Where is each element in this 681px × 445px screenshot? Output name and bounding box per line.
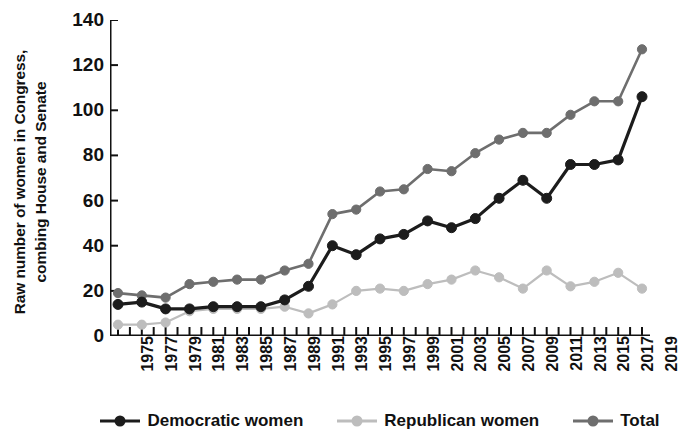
data-point bbox=[470, 214, 480, 224]
data-point bbox=[375, 284, 384, 293]
data-point bbox=[566, 282, 575, 291]
data-point bbox=[447, 223, 457, 233]
data-point bbox=[447, 275, 456, 284]
data-point bbox=[375, 187, 384, 196]
y-axis-tick-labels: 020406080100120140 bbox=[56, 20, 104, 336]
x-tick-label-1997: 1997 bbox=[401, 336, 419, 404]
data-point bbox=[613, 155, 623, 165]
data-point bbox=[352, 286, 361, 295]
x-tick-label-2013: 2013 bbox=[592, 336, 610, 404]
x-tick-label-1975: 1975 bbox=[139, 336, 157, 404]
data-point bbox=[280, 295, 290, 305]
y-tick-label-140: 140 bbox=[60, 9, 104, 31]
legend-label: Republican women bbox=[384, 411, 539, 431]
data-point bbox=[161, 318, 170, 327]
y-tick-label-100: 100 bbox=[60, 99, 104, 121]
data-point bbox=[518, 128, 527, 137]
data-point bbox=[637, 284, 646, 293]
y-tick-label-40: 40 bbox=[60, 235, 104, 257]
data-point bbox=[208, 302, 218, 312]
data-point bbox=[232, 302, 242, 312]
x-tick-label-2009: 2009 bbox=[544, 336, 562, 404]
plot-area bbox=[110, 20, 650, 336]
data-point bbox=[304, 281, 314, 291]
legend-dot bbox=[588, 416, 599, 427]
data-point bbox=[352, 205, 361, 214]
x-tick-label-1977: 1977 bbox=[163, 336, 181, 404]
legend-marker-icon bbox=[100, 414, 140, 428]
data-point bbox=[399, 286, 408, 295]
series-total bbox=[113, 45, 646, 303]
x-tick-label-2005: 2005 bbox=[496, 336, 514, 404]
data-point bbox=[161, 304, 171, 314]
data-point bbox=[614, 268, 623, 277]
data-point bbox=[304, 259, 313, 268]
x-tick-label-2007: 2007 bbox=[520, 336, 538, 404]
data-point bbox=[233, 275, 242, 284]
x-tick-label-1985: 1985 bbox=[258, 336, 276, 404]
chart-legend: Democratic womenRepublican womenTotal bbox=[110, 406, 650, 436]
legend-item-republican-women[interactable]: Republican women bbox=[337, 411, 539, 431]
legend-item-democratic-women[interactable]: Democratic women bbox=[100, 411, 303, 431]
data-point bbox=[471, 149, 480, 158]
data-point bbox=[494, 193, 504, 203]
y-tick-label-80: 80 bbox=[60, 144, 104, 166]
legend-marker-icon bbox=[337, 414, 377, 428]
y-tick-label-20: 20 bbox=[60, 280, 104, 302]
data-point bbox=[637, 45, 646, 54]
data-point bbox=[423, 280, 432, 289]
data-point bbox=[256, 302, 266, 312]
data-point bbox=[137, 297, 147, 307]
x-tick-label-2019: 2019 bbox=[663, 336, 681, 404]
x-tick-label-1981: 1981 bbox=[210, 336, 228, 404]
data-point bbox=[399, 229, 409, 239]
data-point bbox=[614, 97, 623, 106]
data-point bbox=[589, 160, 599, 170]
data-point bbox=[423, 164, 432, 173]
legend-item-total[interactable]: Total bbox=[573, 411, 659, 431]
data-point bbox=[590, 97, 599, 106]
data-point bbox=[590, 277, 599, 286]
x-tick-label-2001: 2001 bbox=[449, 336, 467, 404]
data-point bbox=[327, 241, 337, 251]
x-tick-label-2017: 2017 bbox=[639, 336, 657, 404]
x-tick-label-1995: 1995 bbox=[377, 336, 395, 404]
data-point bbox=[328, 300, 337, 309]
legend-dot bbox=[115, 416, 126, 427]
legend-label: Total bbox=[620, 411, 659, 431]
legend-marker-icon bbox=[573, 414, 613, 428]
data-point bbox=[423, 216, 433, 226]
legend-label: Democratic women bbox=[147, 411, 303, 431]
data-point bbox=[304, 309, 313, 318]
y-tick-label-0: 0 bbox=[60, 325, 104, 347]
y-tick-label-60: 60 bbox=[60, 190, 104, 212]
data-point bbox=[209, 277, 218, 286]
data-point bbox=[399, 185, 408, 194]
x-tick-label-1991: 1991 bbox=[330, 336, 348, 404]
data-point bbox=[256, 275, 265, 284]
x-tick-label-1987: 1987 bbox=[282, 336, 300, 404]
data-point bbox=[471, 266, 480, 275]
x-tick-label-2015: 2015 bbox=[615, 336, 633, 404]
x-tick-label-1983: 1983 bbox=[234, 336, 252, 404]
y-axis-title: Raw number of women in Congress, combing… bbox=[0, 32, 62, 332]
x-tick-label-1999: 1999 bbox=[425, 336, 443, 404]
series-line bbox=[118, 271, 642, 325]
x-tick-label-2003: 2003 bbox=[472, 336, 490, 404]
x-tick-label-1989: 1989 bbox=[306, 336, 324, 404]
data-point bbox=[185, 280, 194, 289]
series-line bbox=[118, 97, 642, 309]
data-point bbox=[518, 175, 528, 185]
x-tick-label-1993: 1993 bbox=[353, 336, 371, 404]
data-point bbox=[351, 250, 361, 260]
data-point bbox=[113, 289, 122, 298]
data-point bbox=[518, 284, 527, 293]
x-tick-label-1979: 1979 bbox=[187, 336, 205, 404]
data-point bbox=[542, 266, 551, 275]
data-point bbox=[185, 304, 195, 314]
data-point bbox=[447, 167, 456, 176]
data-point bbox=[542, 193, 552, 203]
data-point bbox=[637, 92, 647, 102]
data-point bbox=[495, 135, 504, 144]
